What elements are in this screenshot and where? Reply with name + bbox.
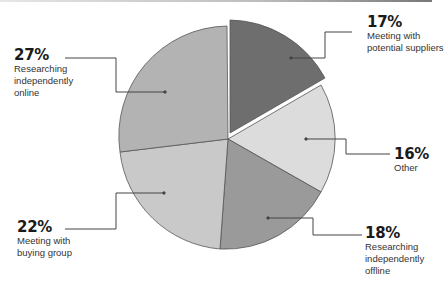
- label-suppliers-line2: potential suppliers: [367, 42, 444, 54]
- label-offline-line2: independently: [365, 253, 424, 265]
- label-other: 16% Other: [394, 146, 429, 174]
- label-online-pct: 27%: [14, 47, 73, 63]
- label-offline-line3: offline: [365, 265, 424, 277]
- label-offline-pct: 18%: [365, 225, 424, 241]
- label-online-line1: Researching: [14, 63, 73, 75]
- label-buying: 22% Meeting with buying group: [17, 219, 72, 259]
- label-online: 27% Researching independently online: [14, 47, 73, 99]
- label-online-line3: online: [14, 87, 73, 99]
- slice-online: [119, 26, 228, 152]
- slice-buying: [120, 139, 228, 249]
- label-offline-line1: Researching: [365, 241, 424, 253]
- label-other-line1: Other: [394, 162, 429, 174]
- label-suppliers-pct: 17%: [367, 14, 444, 30]
- label-buying-line2: buying group: [17, 247, 72, 259]
- label-buying-line1: Meeting with: [17, 235, 72, 247]
- label-online-line2: independently: [14, 75, 73, 87]
- label-buying-pct: 22%: [17, 219, 72, 235]
- label-offline: 18% Researching independently offline: [365, 225, 424, 277]
- label-suppliers: 17% Meeting with potential suppliers: [367, 14, 444, 54]
- label-other-pct: 16%: [394, 146, 429, 162]
- label-suppliers-line1: Meeting with: [367, 30, 444, 42]
